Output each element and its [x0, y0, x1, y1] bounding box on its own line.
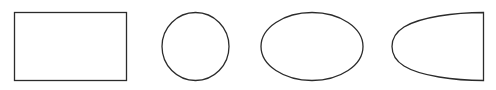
- circle-shape: [162, 13, 229, 81]
- shapes-diagram: [0, 0, 496, 90]
- half-ellipse-shape: [392, 13, 484, 81]
- ellipse-shape: [261, 13, 363, 81]
- rectangle-shape: [15, 13, 127, 81]
